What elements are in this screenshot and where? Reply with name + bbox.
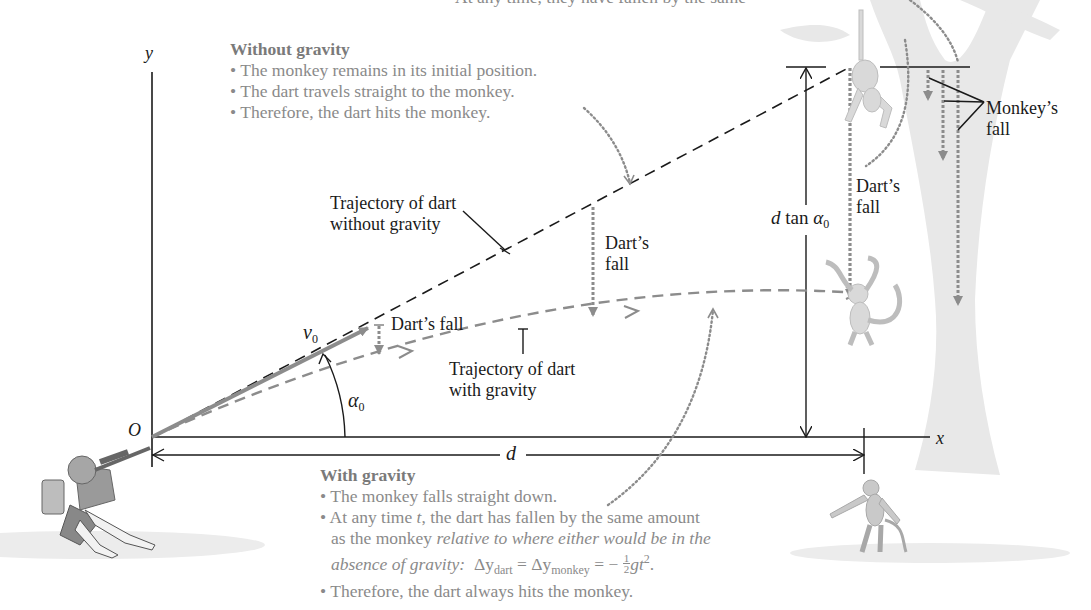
tree-illustration <box>780 0 1060 475</box>
d-label: d <box>506 443 516 464</box>
x-axis-label: x <box>936 428 944 449</box>
darts-fall-small-label: Dart’s fall <box>391 314 463 335</box>
darts-fall-right-line2: fall <box>856 197 900 218</box>
with-gravity-heading: With gravity <box>320 465 711 486</box>
with-gravity-bullet-2: • At any time t, the dart has fallen by … <box>320 507 711 528</box>
origin-label: O <box>128 420 141 441</box>
without-gravity-heading: Without gravity <box>230 39 537 60</box>
darts-fall-mid-line1: Dart’s <box>605 233 649 254</box>
traj-without-line2: without gravity <box>330 214 456 235</box>
traj-with-line1: Trajectory of dart <box>449 359 575 380</box>
darts-fall-right-label: Dart’s fall <box>856 176 900 218</box>
darts-fall-right-line1: Dart’s <box>856 176 900 197</box>
traj-with-label: Trajectory of dart with gravity <box>449 359 575 401</box>
traj-without-line1: Trajectory of dart <box>330 193 456 214</box>
v0-label: v0 <box>303 322 318 350</box>
fall-equation: Δydart = Δymonkey = − 12gt2. <box>474 554 654 574</box>
trajectory-arrow-2 <box>624 306 638 318</box>
ground-shadow-right <box>790 543 1070 563</box>
without-gravity-note: Without gravity • The monkey remains in … <box>230 39 537 123</box>
dtan-alpha-label: d tan α0 <box>769 207 831 235</box>
without-gravity-bullet-3: • Therefore, the dart hits the monkey. <box>230 102 537 123</box>
monkeys-fall-line1: Monkey’s <box>986 98 1058 119</box>
without-gravity-bullet-2: • The dart travels straight to the monke… <box>230 81 537 102</box>
with-gravity-note: With gravity • The monkey falls straight… <box>320 465 711 602</box>
top-caption-partial: At any time, they have fallen by the sam… <box>455 0 746 8</box>
with-gravity-bullet-2-line2: as the monkey relative to where either w… <box>320 528 711 549</box>
with-gravity-bullet-1: • The monkey falls straight down. <box>320 486 711 507</box>
y-axis-label: y <box>145 43 153 64</box>
trajectory-arrow-1 <box>398 346 412 358</box>
without-gravity-bullet-1: • The monkey remains in its initial posi… <box>230 60 537 81</box>
alpha0-label: α0 <box>348 390 365 418</box>
darts-fall-mid-line2: fall <box>605 254 649 275</box>
dotted-connector-without <box>584 108 630 183</box>
traj-with-line2: with gravity <box>449 380 575 401</box>
monkey-falling-illustration <box>826 258 900 345</box>
darts-fall-mid-label: Dart’s fall <box>605 233 649 275</box>
with-gravity-bullet-3: • Therefore, the dart always hits the mo… <box>320 581 711 602</box>
monkey-standing-illustration <box>830 480 906 552</box>
traj-without-leader <box>463 211 505 250</box>
monkeys-fall-label: Monkey’s fall <box>986 98 1058 140</box>
with-gravity-bullet-2-line3: absence of gravity: Δydart = Δymonkey = … <box>320 549 711 581</box>
traj-without-label: Trajectory of dart without gravity <box>330 193 456 235</box>
monkeys-fall-line2: fall <box>986 119 1058 140</box>
